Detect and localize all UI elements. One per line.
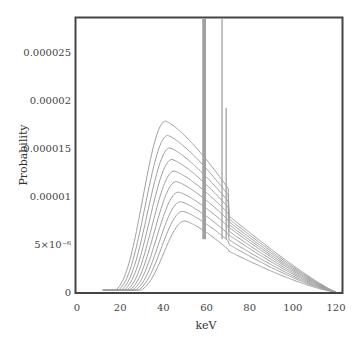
x-tick-label: 40 [157,302,170,313]
x-tick-label: 80 [243,302,256,313]
x-tick-label: 120 [326,302,345,313]
spectrum-curve [103,136,336,293]
x-axis-ticks: 020406080100120 [74,302,346,313]
y-tick-label: 5×10⁻⁶ [34,239,71,250]
x-axis-label: keV [195,319,217,332]
x-tick-label: 100 [283,302,302,313]
characteristic-lines [203,19,226,239]
y-tick-label: 0.00002 [30,95,71,106]
spectrum-curve [103,121,336,292]
y-tick-label: 0.000025 [23,47,71,58]
y-axis-ticks: 05×10⁻⁶0.000010.0000150.000020.000025 [23,47,71,298]
plot-frame [76,18,343,294]
y-tick-label: 0.00001 [30,191,71,202]
x-tick-label: 20 [114,302,127,313]
x-tick-label: 60 [200,302,213,313]
spectrum-chart: 05×10⁻⁶0.000010.0000150.000020.000025 02… [0,0,362,344]
y-axis-label: Probability [17,124,30,186]
x-tick-label: 0 [74,302,80,313]
y-tick-label: 0.000015 [23,143,71,154]
y-tick-label: 0 [65,287,71,298]
spectrum-curves [103,121,336,292]
